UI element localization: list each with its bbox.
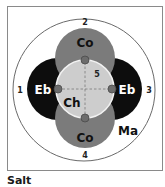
position-number-3: 3	[146, 86, 152, 95]
dot-bottom	[81, 114, 89, 122]
label-center: Ch	[63, 96, 80, 110]
diagram-caption: Salt	[7, 174, 31, 187]
salt-layout-diagram: Co Co Eb Eb Ch Ma 1 2 3 4 5	[0, 0, 165, 187]
dot-left	[54, 85, 62, 93]
dot-top	[81, 56, 89, 64]
label-co-bottom: Co	[76, 131, 93, 145]
position-number-2: 2	[82, 18, 88, 27]
label-eb-right: Eb	[119, 83, 136, 97]
position-number-1: 1	[17, 86, 23, 95]
label-co-top: Co	[76, 36, 93, 50]
position-number-5: 5	[94, 70, 100, 79]
label-outer: Ma	[118, 124, 138, 138]
position-number-4: 4	[82, 151, 88, 160]
dot-right	[108, 85, 116, 93]
label-eb-left: Eb	[35, 83, 52, 97]
